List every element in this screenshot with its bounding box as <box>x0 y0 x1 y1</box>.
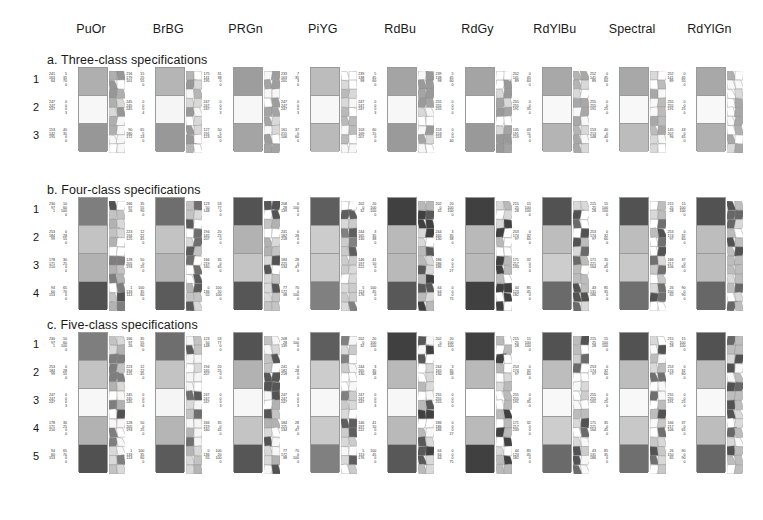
spec-values: 128 205 19350 0 25 0 <box>119 422 144 437</box>
spec-values: 145 191 21943 11 0 0 <box>506 129 531 144</box>
cmyk-values: 31 38 0 0 <box>213 73 222 88</box>
rgb-values: 166 217 106 <box>660 422 673 437</box>
cmyk-values: 0 28 55 0 <box>58 366 67 381</box>
spec-values: 253 174 970 32 60 0 <box>583 231 608 246</box>
rgb-values: 247 247 247 <box>274 394 287 409</box>
color-swatch <box>311 389 339 417</box>
spec-values: 77 172 3870 0 100 0 <box>274 287 299 302</box>
color-swatch <box>697 124 725 152</box>
spec-values: 145 207 9643 0 65 0 <box>660 129 685 144</box>
cmyk-values: 20 25 0 0 <box>213 231 222 246</box>
spec-values: 244 165 1303 35 38 0 <box>429 366 454 381</box>
color-swatch <box>620 361 648 389</box>
cmyk-values: 0 0 35 0 <box>522 101 531 116</box>
color-swatch <box>234 226 262 254</box>
column-header-puor: PuOr <box>56 22 126 36</box>
rgb-values: 215 25 28 <box>506 338 519 353</box>
color-swatch <box>466 124 494 152</box>
cmyk-values: 53 77 0 0 <box>213 203 222 218</box>
swatch-column-rdylbu-a <box>542 67 572 151</box>
color-swatch <box>620 124 648 152</box>
spec-values: 202 0 3220 100 100 0 <box>351 338 376 353</box>
color-swatch <box>697 282 725 310</box>
color-swatch <box>543 389 571 417</box>
cmyk-values: 12 22 45 0 <box>135 231 144 246</box>
cmyk-values: 0 0 0 75 <box>445 450 454 465</box>
rgb-values: 178 171 210 <box>42 422 55 437</box>
color-swatch <box>466 198 494 226</box>
rgb-values: 202 0 32 <box>429 203 442 218</box>
spec-values: 223 194 12512 22 45 0 <box>119 231 144 246</box>
spec-values: 166 219 16035 0 45 0 <box>197 259 222 274</box>
cmyk-values: 35 0 45 0 <box>599 259 608 274</box>
cmyk-values: 85 35 0 0 <box>599 287 608 302</box>
spec-values: 184 225 13428 0 47 0 <box>274 259 299 274</box>
swatch-column-piyg-b <box>310 197 340 309</box>
cmyk-values: 0 0 0 27 <box>445 422 454 437</box>
color-swatch <box>79 361 107 389</box>
spec-values: 253 174 970 32 60 0 <box>506 366 531 381</box>
row-label-1: 1 <box>30 204 42 215</box>
color-swatch <box>388 96 416 124</box>
color-swatch <box>311 445 339 473</box>
spec-values: 161 215 10637 0 60 0 <box>274 129 299 144</box>
color-swatch <box>388 226 416 254</box>
rgb-values: 171 221 164 <box>583 259 596 274</box>
spec-values: 247 247 2470 0 0 3 <box>351 394 376 409</box>
spec-values: 153 153 1530 0 0 40 <box>429 129 454 144</box>
rgb-values: 166 219 160 <box>197 422 210 437</box>
spec-values: 94 60 15365 70 0 0 <box>42 287 67 302</box>
rgb-values: 166 219 160 <box>197 259 210 274</box>
color-swatch <box>234 333 262 361</box>
color-swatch <box>620 96 648 124</box>
color-swatch <box>466 445 494 473</box>
spec-values: 215 25 2815 100 100 0 <box>660 338 685 353</box>
cmyk-values: 43 11 0 0 <box>522 129 531 144</box>
column-header-rdylbu: RdYlBu <box>520 22 590 36</box>
cmyk-values: 0 0 0 3 <box>58 101 67 116</box>
color-swatch <box>156 124 184 152</box>
row-label-1: 1 <box>30 74 42 85</box>
cmyk-values: 0 100 0 0 <box>290 338 299 353</box>
spec-values: 247 247 2470 0 0 3 <box>42 394 67 409</box>
color-swatch <box>388 445 416 473</box>
cmyk-values: 15 100 100 0 <box>599 338 608 353</box>
cmyk-values: 35 0 45 0 <box>599 422 608 437</box>
color-swatch <box>311 333 339 361</box>
swatch-column-rdbu-b <box>387 197 417 309</box>
color-swatch <box>388 389 416 417</box>
color-swatch <box>466 417 494 445</box>
spec-values: 255 255 1910 0 35 0 <box>506 394 531 409</box>
rgb-values: 166 217 106 <box>660 259 673 274</box>
swatch-column-rdgy-a <box>465 67 495 151</box>
rgb-values: 90 180 172 <box>119 129 132 144</box>
color-swatch <box>156 96 184 124</box>
cmyk-values: 0 32 60 0 <box>676 231 685 246</box>
row-label-3: 3 <box>30 395 42 406</box>
spec-values: 253 174 970 32 60 0 <box>660 366 685 381</box>
row-label-4: 4 <box>30 288 42 299</box>
rgb-values: 153 142 195 <box>42 129 55 144</box>
cmyk-values: 0 0 0 3 <box>213 394 222 409</box>
color-swatch <box>156 282 184 310</box>
color-swatch <box>620 68 648 96</box>
swatch-column-rdylbu-c <box>542 332 572 472</box>
swatch-column-puor-a <box>78 67 108 151</box>
rgb-values: 153 153 153 <box>429 129 442 144</box>
cmyk-values: 30 25 0 0 <box>58 422 67 437</box>
rgb-values: 184 225 134 <box>274 259 287 274</box>
spec-values: 223 194 12512 22 45 0 <box>119 366 144 381</box>
rgb-values: 253 184 99 <box>42 231 55 246</box>
color-swatch <box>156 445 184 473</box>
cmyk-values: 100 45 0 0 <box>367 450 376 465</box>
cmyk-values: 0 0 0 3 <box>58 394 67 409</box>
spec-values: 239 138 985 45 60 0 <box>429 73 454 88</box>
rgb-values: 239 138 98 <box>429 73 442 88</box>
spec-values: 128 205 19350 0 25 0 <box>119 259 144 274</box>
cmyk-values: 0 28 0 0 <box>290 231 299 246</box>
spec-values: 202 0 3220 100 100 0 <box>351 203 376 218</box>
rgb-values: 43 131 186 <box>583 450 596 465</box>
spec-values: 252 141 890 45 60 0 <box>583 73 608 88</box>
spec-values: 255 255 1910 0 25 0 <box>583 394 608 409</box>
rgb-values: 64 64 64 <box>429 287 442 302</box>
